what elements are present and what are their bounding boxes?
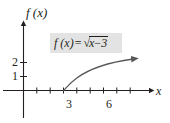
equation-label: f (x)=√x−3 [54, 36, 108, 49]
equation-equals: = [74, 36, 83, 50]
radicand: x−3 [89, 36, 108, 49]
sqrt-curve [64, 59, 134, 91]
equation-lhs: f (x) [54, 36, 74, 50]
radicand-constant: 3 [101, 36, 107, 50]
x-tick-label-6: 6 [106, 98, 112, 110]
radical-expression: √x−3 [82, 36, 108, 49]
y-tick-label-1: 1 [12, 70, 18, 82]
y-tick-label-2: 2 [12, 56, 18, 68]
function-graph-figure: f (x)=√x−3 f (x) x 2 1 3 6 [0, 0, 170, 123]
x-tick-label-3: 3 [66, 98, 72, 110]
x-axis-label: x [156, 85, 161, 97]
y-axis-label: f (x) [26, 6, 47, 19]
